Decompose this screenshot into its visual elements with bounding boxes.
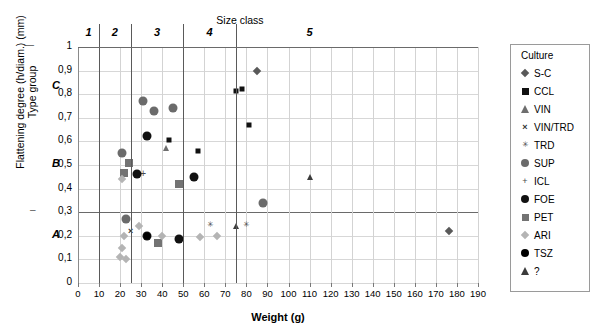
size-class-number: 3 — [147, 26, 167, 38]
y-axis-dash: — — [24, 39, 34, 50]
data-point — [143, 131, 152, 140]
x-gridline — [225, 47, 226, 283]
x-gridline — [331, 47, 332, 283]
y-gridline — [78, 212, 478, 213]
legend-item-sup[interactable]: SUP — [511, 154, 589, 172]
x-axis-title: Weight (g) — [78, 311, 478, 323]
x-tick — [373, 283, 374, 287]
size-class-divider — [99, 24, 100, 283]
y-gridline — [78, 71, 478, 72]
x-gridline — [457, 47, 458, 283]
legend-item-ari[interactable]: ARI — [511, 226, 589, 244]
x-tick — [415, 283, 416, 287]
size-class-number: 5 — [300, 26, 320, 38]
y-gridline — [78, 94, 478, 95]
triangle-icon — [517, 105, 533, 113]
data-point — [213, 232, 221, 240]
size-class-divider — [183, 24, 184, 283]
x-tick — [331, 283, 332, 287]
y-tick-label: 0 — [38, 276, 72, 287]
y-tick-label: 0,6 — [38, 134, 72, 145]
data-point — [166, 138, 171, 143]
y-tick-label: 0,4 — [38, 182, 72, 193]
legend-item-pet[interactable]: PET — [511, 208, 589, 226]
type-group-label: C — [52, 79, 60, 91]
data-point — [196, 148, 201, 153]
type-group-label: B — [52, 157, 60, 169]
data-point — [189, 172, 198, 181]
type-group-label: A — [52, 228, 60, 240]
x-tick — [246, 283, 247, 287]
x-gridline — [310, 47, 311, 283]
y-axis-title-line2: Type group — [26, 0, 38, 202]
square-icon — [517, 214, 533, 221]
x-gridline — [162, 47, 163, 283]
data-point — [175, 235, 184, 244]
x-tick — [99, 283, 100, 287]
x-tick — [162, 283, 163, 287]
plot-area: ×✳✳+ — [78, 47, 478, 283]
data-point — [122, 255, 130, 263]
y-gridline — [78, 189, 478, 190]
x-gridline — [78, 47, 79, 283]
data-point — [253, 66, 261, 74]
legend-item-label: ARI — [534, 230, 551, 241]
legend-item-label: PET — [534, 212, 553, 223]
x-tick — [78, 283, 79, 287]
circle-icon — [517, 195, 533, 203]
y-axis-title: Flattening degree (h/diam.) (mm) Type gr… — [14, 0, 38, 202]
legend-item-label: S-C — [534, 68, 551, 79]
y-gridline — [78, 259, 478, 260]
x-gridline — [415, 47, 416, 283]
legend-item-s-c[interactable]: S-C — [511, 64, 589, 82]
x-tick — [204, 283, 205, 287]
y-tick-label: 0,3 — [38, 205, 72, 216]
x-tick — [457, 283, 458, 287]
size-class-number: 2 — [105, 26, 125, 38]
x-tick — [310, 283, 311, 287]
y-axis-title-line1: Flattening degree (h/diam.) (mm) — [14, 0, 26, 202]
x-gridline — [246, 47, 247, 283]
x-tick — [183, 283, 184, 287]
data-point — [307, 174, 313, 180]
legend-item-vin[interactable]: VIN — [511, 100, 589, 118]
data-point — [149, 106, 158, 115]
legend-item-ccl[interactable]: CCL — [511, 82, 589, 100]
legend-item-tsz[interactable]: TSZ — [511, 244, 589, 262]
y-gridline — [78, 283, 478, 284]
legend-title: Culture — [521, 50, 589, 61]
chart-root: Flattening degree (h/diam.) (mm) Type gr… — [0, 0, 598, 331]
legend-item--[interactable]: ? — [511, 262, 589, 280]
circle-icon — [517, 159, 533, 167]
legend-item-label: VIN — [534, 104, 551, 115]
x-icon: × — [517, 123, 533, 132]
data-point — [196, 233, 204, 241]
legend-item-label: TSZ — [534, 248, 553, 259]
x-gridline — [394, 47, 395, 283]
x-gridline — [478, 47, 479, 283]
data-point — [118, 149, 127, 158]
legend-item-vin-trd[interactable]: ×VIN/TRD — [511, 118, 589, 136]
y-gridline — [78, 118, 478, 119]
data-point — [168, 104, 177, 113]
y-tick-label: 1 — [38, 40, 72, 51]
size-class-divider — [236, 24, 237, 283]
x-tick — [352, 283, 353, 287]
size-class-divider — [131, 24, 132, 283]
data-point — [122, 215, 131, 224]
x-tick — [267, 283, 268, 287]
diamond-icon — [517, 232, 533, 238]
legend-item-label: VIN/TRD — [534, 122, 574, 133]
y-tick-label: 0,7 — [38, 111, 72, 122]
legend-rows: S-CCCLVIN×VIN/TRD✳TRDSUP+ICLFOEPETARITSZ… — [511, 64, 589, 280]
data-point — [132, 170, 141, 179]
x-tick — [225, 283, 226, 287]
x-tick — [436, 283, 437, 287]
legend-item-trd[interactable]: ✳TRD — [511, 136, 589, 154]
plus-icon: + — [517, 177, 533, 186]
data-point — [259, 198, 268, 207]
legend-item-foe[interactable]: FOE — [511, 190, 589, 208]
triangle-icon — [517, 267, 533, 275]
legend-item-label: ? — [534, 266, 540, 277]
legend-item-icl[interactable]: +ICL — [511, 172, 589, 190]
